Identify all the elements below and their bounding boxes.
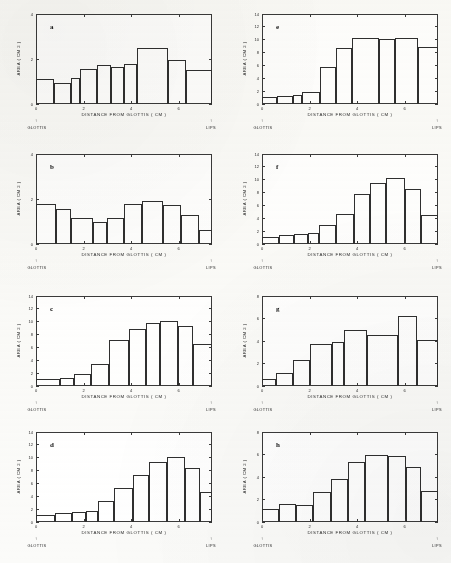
x-tick-label: 4 bbox=[351, 106, 363, 111]
y-tick-mark-right bbox=[435, 205, 438, 206]
x-tick-mark-top bbox=[84, 154, 85, 157]
bar bbox=[352, 38, 378, 104]
y-tick-label: 10 bbox=[22, 319, 33, 324]
x-axis-label: DISTANCE FROM GLOTTIS ( CM ) bbox=[36, 530, 212, 535]
y-tick-label: 2 bbox=[22, 507, 33, 512]
bar bbox=[365, 455, 388, 523]
bar bbox=[109, 340, 129, 386]
bar bbox=[277, 96, 293, 104]
x-axis-label: DISTANCE FROM GLOTTIS ( CM ) bbox=[262, 530, 438, 535]
x-tick-label: 6 bbox=[173, 388, 185, 393]
x-tick-mark bbox=[36, 241, 37, 244]
y-tick-mark-right bbox=[435, 231, 438, 232]
y-tick-mark-right bbox=[209, 444, 212, 445]
y-tick-mark bbox=[36, 347, 39, 348]
bar bbox=[114, 488, 132, 522]
x-tick-mark-top bbox=[310, 14, 311, 17]
lips-end-label: LIPS bbox=[426, 543, 448, 548]
y-tick-mark-right bbox=[209, 347, 212, 348]
x-tick-mark-top bbox=[310, 432, 311, 435]
y-tick-mark bbox=[262, 78, 265, 79]
y-tick-mark bbox=[262, 477, 265, 478]
bar bbox=[129, 329, 146, 386]
x-tick-mark-top bbox=[179, 14, 180, 17]
y-tick-mark bbox=[36, 360, 39, 361]
y-tick-mark bbox=[262, 91, 265, 92]
y-tick-mark bbox=[36, 199, 39, 200]
x-tick-mark bbox=[36, 383, 37, 386]
x-tick-mark-top bbox=[131, 432, 132, 435]
bar bbox=[55, 513, 72, 522]
x-tick-label: 0 bbox=[256, 388, 268, 393]
lips-arrow-icon: ↑ bbox=[210, 259, 212, 264]
x-tick-label: 0 bbox=[256, 106, 268, 111]
x-tick-mark-top bbox=[262, 432, 263, 435]
y-tick-label: 6 bbox=[248, 452, 259, 457]
y-tick-mark-right bbox=[435, 522, 438, 523]
y-tick-label: 6 bbox=[248, 203, 259, 208]
lips-end-label: LIPS bbox=[426, 125, 448, 130]
bar bbox=[160, 321, 178, 386]
y-tick-label: 12 bbox=[22, 442, 33, 447]
y-tick-mark-right bbox=[209, 432, 212, 433]
x-tick-mark bbox=[131, 383, 132, 386]
bar bbox=[279, 235, 294, 244]
y-tick-mark-right bbox=[435, 91, 438, 92]
y-axis-label: AREA ( CM 2 ) bbox=[242, 313, 247, 369]
bar-series-d bbox=[36, 432, 212, 522]
x-tick-label: 2 bbox=[304, 388, 316, 393]
bar bbox=[406, 467, 421, 522]
bar-series-f bbox=[262, 154, 438, 244]
y-tick-label: 10 bbox=[22, 455, 33, 460]
bar bbox=[91, 364, 109, 387]
y-tick-mark-right bbox=[435, 218, 438, 219]
y-tick-mark bbox=[36, 509, 39, 510]
y-tick-mark-right bbox=[209, 496, 212, 497]
x-tick-mark-top bbox=[310, 296, 311, 299]
y-tick-label: 2 bbox=[22, 371, 33, 376]
y-tick-mark-right bbox=[435, 14, 438, 15]
x-tick-label: 2 bbox=[78, 106, 90, 111]
bar bbox=[293, 360, 310, 386]
y-tick-mark-right bbox=[209, 244, 212, 245]
y-tick-label: 10 bbox=[248, 37, 259, 42]
y-tick-label: 14 bbox=[248, 152, 259, 157]
glottis-arrow-icon: ↑ bbox=[35, 259, 37, 264]
y-tick-label: 4 bbox=[22, 152, 33, 157]
x-tick-mark-top bbox=[262, 154, 263, 157]
x-tick-mark-top bbox=[179, 296, 180, 299]
y-tick-mark-right bbox=[209, 522, 212, 523]
bar bbox=[186, 70, 212, 104]
y-tick-label: 8 bbox=[248, 294, 259, 299]
x-tick-label: 0 bbox=[256, 524, 268, 529]
x-tick-mark bbox=[131, 241, 132, 244]
y-tick-mark bbox=[36, 483, 39, 484]
x-tick-mark bbox=[357, 383, 358, 386]
x-tick-mark-top bbox=[131, 296, 132, 299]
y-tick-mark-right bbox=[209, 104, 212, 105]
x-tick-label: 6 bbox=[399, 246, 411, 251]
bar bbox=[421, 491, 438, 522]
bar bbox=[107, 218, 124, 244]
y-tick-mark-right bbox=[435, 52, 438, 53]
glottis-arrow-icon: ↑ bbox=[35, 401, 37, 406]
panel-letter-b: b bbox=[50, 163, 54, 171]
y-tick-mark-right bbox=[209, 470, 212, 471]
glottis-end-label: GLOTTIS bbox=[248, 543, 278, 548]
bar bbox=[36, 204, 56, 245]
x-tick-mark-top bbox=[405, 154, 406, 157]
x-tick-mark bbox=[36, 101, 37, 104]
y-tick-mark-right bbox=[209, 360, 212, 361]
bar bbox=[93, 222, 107, 245]
x-axis-label: DISTANCE FROM GLOTTIS ( CM ) bbox=[262, 252, 438, 257]
y-tick-mark bbox=[262, 52, 265, 53]
lips-end-label: LIPS bbox=[200, 407, 222, 412]
y-tick-mark-right bbox=[209, 483, 212, 484]
x-tick-mark bbox=[357, 241, 358, 244]
x-tick-mark bbox=[310, 241, 311, 244]
y-tick-label: 12 bbox=[22, 306, 33, 311]
x-tick-mark-top bbox=[310, 154, 311, 157]
y-tick-mark-right bbox=[435, 318, 438, 319]
bar bbox=[320, 67, 335, 104]
y-tick-mark bbox=[36, 59, 39, 60]
